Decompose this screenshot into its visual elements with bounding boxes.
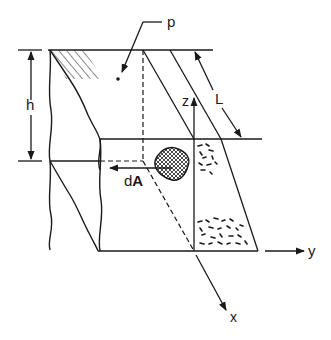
plate-lower-edge — [221, 139, 258, 251]
pressure-point — [116, 77, 120, 81]
l-dimension-arrow-up — [195, 52, 213, 90]
l-dimension-arrow-down — [222, 108, 241, 137]
x-axis-label: x — [230, 309, 237, 325]
length-label: L — [215, 90, 223, 107]
left-wavy-wall — [49, 50, 52, 250]
y-axis-label: y — [308, 242, 316, 259]
hydrostatic-diagram: p h L z y x dA — [0, 0, 331, 340]
area-element-label: dA — [124, 172, 143, 189]
container-walls — [49, 50, 102, 251]
area-element-prefix: d — [124, 172, 132, 189]
area-element-bold: A — [132, 172, 143, 189]
p-leader-arrow — [122, 22, 143, 72]
pressure-label: p — [167, 13, 175, 30]
plate-geometry — [50, 50, 262, 251]
plate-edge-right — [170, 50, 221, 139]
area-element-blob — [155, 148, 189, 181]
depth-label: h — [26, 96, 34, 113]
z-axis-label: z — [182, 93, 189, 109]
lower-wavy-edge — [50, 161, 98, 251]
x-axis-arrow — [196, 255, 226, 310]
